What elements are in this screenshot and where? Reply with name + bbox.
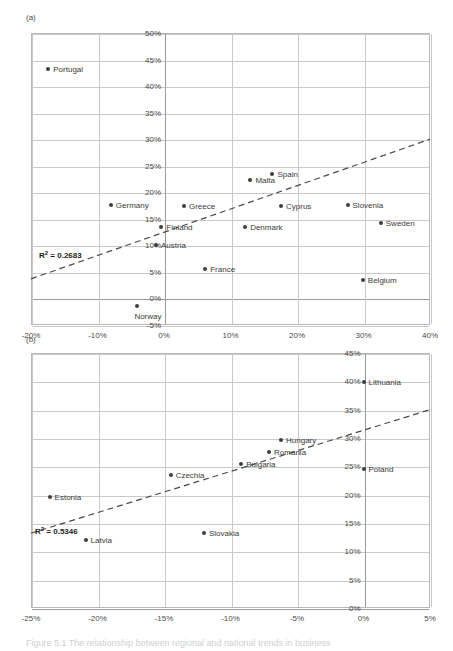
trend-line: [31, 353, 430, 608]
data-point-label: Cyprus: [286, 201, 311, 210]
data-point-label: Belgium: [368, 276, 397, 285]
y-axis-tick-label: 50%: [136, 29, 161, 38]
data-point: [379, 221, 383, 225]
data-point-label: Norway: [134, 312, 161, 321]
data-point: [361, 278, 365, 282]
x-axis-tick-label: 20%: [289, 331, 305, 340]
x-axis-tick-label: -25%: [22, 614, 41, 623]
gridline-vertical: [431, 34, 432, 324]
data-point: [135, 304, 139, 308]
data-point-label: Slovakia: [209, 528, 239, 537]
x-axis-tick-label: -15%: [155, 614, 174, 623]
x-axis-tick-label: -20%: [88, 614, 107, 623]
y-axis-tick-label: 30%: [136, 135, 161, 144]
figure-container: (a) -5%0%5%10%15%20%25%30%35%40%45%50%-2…: [0, 0, 453, 651]
y-axis-tick-label: 35%: [336, 405, 361, 414]
y-axis-tick-label: 25%: [336, 462, 361, 471]
data-point-label: Germany: [116, 201, 149, 210]
y-axis-tick-label: 0%: [136, 294, 161, 303]
data-point: [109, 203, 113, 207]
y-axis-tick-label: 15%: [336, 519, 361, 528]
y-axis-tick-label: 30%: [336, 434, 361, 443]
y-axis-tick-label: 20%: [336, 490, 361, 499]
x-axis-tick-label: 0%: [358, 614, 370, 623]
r-squared-annotation: R2 = 0.5346: [35, 526, 78, 537]
data-point-label: Bulgaria: [246, 459, 275, 468]
data-point: [159, 225, 163, 229]
panel-b-label: (b): [26, 335, 36, 344]
data-point: [169, 473, 173, 477]
data-point-label: Czechia: [176, 470, 205, 479]
data-point: [202, 531, 206, 535]
data-point-label: Finland: [166, 223, 192, 232]
data-point: [362, 467, 366, 471]
data-point-label: Estonia: [55, 492, 82, 501]
data-point: [239, 462, 243, 466]
data-point-label: Latvia: [91, 536, 112, 545]
data-point-label: Romania: [274, 447, 306, 456]
data-point: [203, 267, 207, 271]
x-axis-tick-label: -10%: [88, 331, 107, 340]
y-axis-tick-label: -5%: [136, 321, 161, 330]
data-point-label: Hungary: [286, 435, 316, 444]
data-point: [362, 380, 366, 384]
x-axis-tick-label: 10%: [222, 331, 238, 340]
data-point-label: Portugal: [53, 64, 83, 73]
y-axis-tick-label: 45%: [136, 55, 161, 64]
gridline-horizontal: [32, 326, 429, 327]
data-point-label: Denmark: [250, 223, 282, 232]
data-point: [154, 243, 158, 247]
figure-caption: Figure 5.1 The relationship between regi…: [26, 638, 446, 650]
data-point: [279, 204, 283, 208]
plot-a-overlay: -5%0%5%10%15%20%25%30%35%40%45%50%-20%-1…: [31, 33, 430, 325]
x-axis-tick-label: 30%: [355, 331, 371, 340]
panel-a-label: (a): [26, 13, 36, 22]
r-squared-annotation: R2 = 0.2683: [39, 250, 82, 261]
data-point: [346, 203, 350, 207]
data-point: [84, 538, 88, 542]
data-point: [248, 178, 252, 182]
x-axis-tick-label: 0%: [158, 331, 170, 340]
data-point: [48, 495, 52, 499]
plot-b-overlay: 0%5%10%15%20%25%30%35%40%45%-25%-20%-15%…: [31, 353, 430, 608]
x-axis-tick-label: -10%: [221, 614, 240, 623]
gridline-horizontal: [32, 609, 429, 610]
y-axis-tick-label: 20%: [136, 188, 161, 197]
x-axis-tick-label: 5%: [424, 614, 436, 623]
y-axis-tick-label: 45%: [336, 349, 361, 358]
gridline-vertical: [431, 354, 432, 607]
y-axis-tick-label: 15%: [136, 214, 161, 223]
y-axis-tick-label: 5%: [336, 575, 361, 584]
data-point-label: Malta: [255, 175, 275, 184]
data-point: [243, 225, 247, 229]
y-axis-tick-label: 25%: [136, 161, 161, 170]
data-point: [267, 450, 271, 454]
data-point-label: Spain: [277, 170, 297, 179]
y-axis-tick-label: 40%: [336, 377, 361, 386]
x-axis-tick-label: 40%: [422, 331, 438, 340]
data-point: [279, 438, 283, 442]
data-point-label: Poland: [369, 465, 394, 474]
y-axis-tick-label: 40%: [136, 82, 161, 91]
data-point-label: Lithuania: [369, 378, 401, 387]
data-point: [182, 204, 186, 208]
y-axis-tick-label: 5%: [136, 267, 161, 276]
y-axis-tick-label: 0%: [336, 604, 361, 613]
data-point-label: France: [210, 265, 235, 274]
data-point-label: Slovenia: [353, 201, 384, 210]
data-point: [270, 172, 274, 176]
data-point-label: Greece: [189, 202, 215, 211]
y-axis-tick-label: 10%: [336, 547, 361, 556]
data-point: [46, 67, 50, 71]
y-axis-tick-label: 35%: [136, 108, 161, 117]
x-axis-tick-label: -5%: [290, 614, 304, 623]
data-point-label: Sweden: [386, 218, 415, 227]
data-point-label: Austria: [161, 240, 186, 249]
